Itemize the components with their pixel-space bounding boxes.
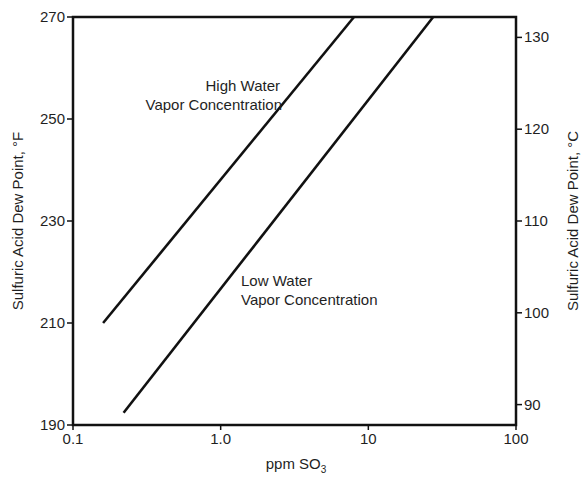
- right-y-axis-title: Sulfuric Acid Dew Point, °C: [564, 131, 581, 311]
- right-tick-label: 90: [524, 396, 541, 413]
- right-tick-label: 130: [524, 28, 549, 45]
- x-tick-label: 100: [503, 430, 528, 447]
- left-tick-label: 210: [40, 314, 65, 331]
- right-y-axis-ticks: 90100110120130: [516, 28, 549, 412]
- dew-point-chart: 190210230250270 90100110120130 0.11.0101…: [0, 0, 588, 481]
- left-tick-label: 190: [40, 416, 65, 433]
- annotation-low-line2: Vapor Concentration: [241, 291, 377, 308]
- annotation-low-line1: Low Water: [241, 272, 312, 289]
- right-tick-label: 110: [524, 212, 548, 229]
- left-y-axis-ticks: 190210230250270: [40, 8, 73, 433]
- right-tick-label: 100: [524, 304, 549, 321]
- x-axis-title: ppm SO3: [266, 455, 327, 475]
- x-tick-label: 10: [360, 430, 377, 447]
- left-tick-label: 250: [40, 110, 65, 127]
- plot-frame: [73, 17, 516, 425]
- right-tick-label: 120: [524, 120, 549, 137]
- annotation-high-line2: Vapor Concentration: [146, 96, 282, 113]
- left-y-axis-title: Sulfuric Acid Dew Point, °F: [9, 132, 26, 311]
- x-tick-label: 0.1: [63, 430, 84, 447]
- x-tick-label: 1.0: [210, 430, 231, 447]
- left-tick-label: 230: [40, 212, 65, 229]
- x-axis-ticks: 0.11.010100: [63, 425, 529, 447]
- annotation-high-line1: High Water: [206, 77, 280, 94]
- left-tick-label: 270: [40, 8, 65, 25]
